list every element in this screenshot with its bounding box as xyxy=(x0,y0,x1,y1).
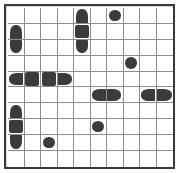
grid-cell-r3-c1[interactable] xyxy=(25,56,42,72)
grid-cell-r9-c7[interactable] xyxy=(124,151,141,167)
grid-cell-r3-c3[interactable] xyxy=(58,56,75,72)
grid-cell-r0-c3[interactable] xyxy=(58,8,75,24)
grid-cell-r0-c0[interactable] xyxy=(8,8,25,24)
grid-cell-r8-c7[interactable] xyxy=(124,135,141,151)
grid-cell-r9-c3[interactable] xyxy=(58,151,75,167)
grid-cell-r8-c3[interactable] xyxy=(58,135,75,151)
grid-cell-r1-c9[interactable] xyxy=(157,24,174,40)
grid-cell-r5-c9[interactable] xyxy=(157,87,174,103)
grid-cell-r6-c6[interactable] xyxy=(107,103,124,119)
grid-cell-r6-c7[interactable] xyxy=(124,103,141,119)
grid-cell-r1-c7[interactable] xyxy=(124,24,141,40)
grid-cell-r4-c1[interactable] xyxy=(25,72,42,88)
grid-cell-r0-c6[interactable] xyxy=(107,8,124,24)
grid-cell-r2-c6[interactable] xyxy=(107,40,124,56)
grid-cell-r5-c4[interactable] xyxy=(74,87,91,103)
grid-cell-r8-c8[interactable] xyxy=(140,135,157,151)
grid-cell-r8-c2[interactable] xyxy=(41,135,58,151)
grid-cell-r7-c9[interactable] xyxy=(157,119,174,135)
grid-cell-r9-c8[interactable] xyxy=(140,151,157,167)
grid-cell-r0-c5[interactable] xyxy=(91,8,108,24)
grid-cell-r1-c2[interactable] xyxy=(41,24,58,40)
grid-cell-r2-c0[interactable] xyxy=(8,40,25,56)
grid-cell-r1-c8[interactable] xyxy=(140,24,157,40)
grid-cell-r6-c1[interactable] xyxy=(25,103,42,119)
grid-cell-r5-c5[interactable] xyxy=(91,87,108,103)
grid-cell-r4-c5[interactable] xyxy=(91,72,108,88)
grid-cell-r2-c5[interactable] xyxy=(91,40,108,56)
grid-cell-r3-c7[interactable] xyxy=(124,56,141,72)
grid-cell-r8-c6[interactable] xyxy=(107,135,124,151)
grid-cell-r3-c8[interactable] xyxy=(140,56,157,72)
grid-cell-r8-c9[interactable] xyxy=(157,135,174,151)
grid-cell-r7-c2[interactable] xyxy=(41,119,58,135)
grid-cell-r0-c8[interactable] xyxy=(140,8,157,24)
grid-cell-r7-c0[interactable] xyxy=(8,119,25,135)
grid-cell-r2-c2[interactable] xyxy=(41,40,58,56)
grid-cell-r7-c6[interactable] xyxy=(107,119,124,135)
grid-cell-r0-c1[interactable] xyxy=(25,8,42,24)
grid-cell-r6-c2[interactable] xyxy=(41,103,58,119)
grid-cell-r9-c4[interactable] xyxy=(74,151,91,167)
grid-cell-r6-c8[interactable] xyxy=(140,103,157,119)
grid-cell-r4-c7[interactable] xyxy=(124,72,141,88)
grid-cell-r4-c0[interactable] xyxy=(8,72,25,88)
grid-cell-r2-c1[interactable] xyxy=(25,40,42,56)
grid-cell-r5-c1[interactable] xyxy=(25,87,42,103)
grid-cell-r1-c1[interactable] xyxy=(25,24,42,40)
grid-cell-r4-c3[interactable] xyxy=(58,72,75,88)
grid-cell-r4-c4[interactable] xyxy=(74,72,91,88)
grid-cell-r1-c0[interactable] xyxy=(8,24,25,40)
grid-cell-r9-c0[interactable] xyxy=(8,151,25,167)
grid-cell-r5-c7[interactable] xyxy=(124,87,141,103)
grid-cell-r3-c2[interactable] xyxy=(41,56,58,72)
grid-cell-r1-c5[interactable] xyxy=(91,24,108,40)
grid-cell-r4-c8[interactable] xyxy=(140,72,157,88)
grid-cell-r7-c4[interactable] xyxy=(74,119,91,135)
grid-cell-r3-c0[interactable] xyxy=(8,56,25,72)
grid-cell-r9-c2[interactable] xyxy=(41,151,58,167)
grid-cell-r2-c4[interactable] xyxy=(74,40,91,56)
grid-cell-r8-c4[interactable] xyxy=(74,135,91,151)
grid-cell-r1-c3[interactable] xyxy=(58,24,75,40)
grid-cell-r9-c9[interactable] xyxy=(157,151,174,167)
grid-cell-r7-c8[interactable] xyxy=(140,119,157,135)
grid-cell-r0-c7[interactable] xyxy=(124,8,141,24)
grid-cell-r9-c5[interactable] xyxy=(91,151,108,167)
grid-cell-r2-c9[interactable] xyxy=(157,40,174,56)
grid-cell-r8-c1[interactable] xyxy=(25,135,42,151)
grid-cell-r4-c2[interactable] xyxy=(41,72,58,88)
grid-cell-r0-c2[interactable] xyxy=(41,8,58,24)
grid-cell-r2-c8[interactable] xyxy=(140,40,157,56)
grid-cell-r6-c0[interactable] xyxy=(8,103,25,119)
grid-cell-r5-c8[interactable] xyxy=(140,87,157,103)
grid-cell-r6-c5[interactable] xyxy=(91,103,108,119)
grid-cell-r8-c0[interactable] xyxy=(8,135,25,151)
grid-cell-r5-c6[interactable] xyxy=(107,87,124,103)
grid-cell-r3-c6[interactable] xyxy=(107,56,124,72)
grid-cell-r5-c0[interactable] xyxy=(8,87,25,103)
grid-cell-r7-c5[interactable] xyxy=(91,119,108,135)
grid-cell-r5-c2[interactable] xyxy=(41,87,58,103)
grid-cell-r3-c9[interactable] xyxy=(157,56,174,72)
grid-cell-r6-c3[interactable] xyxy=(58,103,75,119)
grid-cell-r0-c9[interactable] xyxy=(157,8,174,24)
grid-cell-r4-c9[interactable] xyxy=(157,72,174,88)
grid-cell-r2-c3[interactable] xyxy=(58,40,75,56)
grid-cell-r7-c7[interactable] xyxy=(124,119,141,135)
grid-cell-r6-c4[interactable] xyxy=(74,103,91,119)
grid-cell-r7-c3[interactable] xyxy=(58,119,75,135)
grid-cell-r5-c3[interactable] xyxy=(58,87,75,103)
grid-cell-r4-c6[interactable] xyxy=(107,72,124,88)
grid-cell-r1-c4[interactable] xyxy=(74,24,91,40)
grid-cell-r9-c6[interactable] xyxy=(107,151,124,167)
grid-cell-r8-c5[interactable] xyxy=(91,135,108,151)
grid-cell-r7-c1[interactable] xyxy=(25,119,42,135)
grid-cell-r1-c6[interactable] xyxy=(107,24,124,40)
grid-cell-r6-c9[interactable] xyxy=(157,103,174,119)
grid-cell-r9-c1[interactable] xyxy=(25,151,42,167)
grid-cell-r0-c4[interactable] xyxy=(74,8,91,24)
grid-cell-r3-c4[interactable] xyxy=(74,56,91,72)
grid-cell-r3-c5[interactable] xyxy=(91,56,108,72)
grid-cell-r2-c7[interactable] xyxy=(124,40,141,56)
